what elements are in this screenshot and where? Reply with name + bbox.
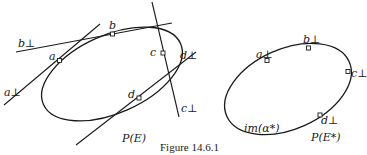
tangent-line-c-perp	[152, 2, 179, 117]
label-c-perp: c⊥	[181, 102, 198, 115]
label-b-perp-point: b⊥	[303, 33, 320, 46]
label-d: d	[128, 88, 135, 101]
left-panel: a b c d a⊥ b⊥ c⊥ d⊥ P(E)	[4, 2, 198, 145]
dual-conic-ellipse	[211, 25, 366, 153]
label-c: c	[150, 46, 156, 59]
label-d-perp-point: d⊥	[321, 114, 338, 127]
label-a: a	[49, 50, 56, 63]
label-im-alpha-star: im(α*)	[244, 122, 279, 135]
point-c-perp	[346, 70, 350, 74]
figure-caption: Figure 14.6.1	[160, 141, 219, 153]
label-b-perp: b⊥	[18, 37, 35, 50]
label-space-PE: P(E)	[121, 132, 146, 145]
point-a	[58, 59, 62, 63]
point-b	[111, 32, 115, 36]
point-c	[161, 51, 165, 55]
label-b: b	[109, 19, 116, 32]
right-panel: a⊥ b⊥ c⊥ d⊥ im(α*) P(E*)	[211, 25, 367, 153]
label-c-perp-point: c⊥	[351, 67, 367, 80]
figure-canvas: a b c d a⊥ b⊥ c⊥ d⊥ P(E) Figure 14.6.1 a…	[0, 0, 367, 155]
label-space-PE-star: P(E*)	[310, 131, 341, 144]
label-a-perp: a⊥	[4, 86, 21, 99]
tangent-line-b-perp	[16, 23, 172, 52]
label-d-perp: d⊥	[180, 49, 197, 62]
label-a-perp-point: a⊥	[256, 48, 273, 61]
point-b-perp	[307, 46, 311, 50]
point-d	[137, 96, 141, 100]
